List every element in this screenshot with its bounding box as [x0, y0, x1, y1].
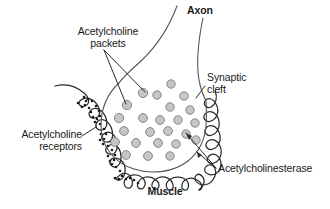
label-acetylcholine-packets: Acetylcholine packets	[62, 26, 154, 49]
vesicle	[122, 100, 131, 109]
leader-ache-1	[186, 133, 216, 168]
leader-receptors	[82, 127, 96, 136]
leader-lines	[82, 50, 216, 168]
label-muscle: Muscle	[120, 186, 210, 198]
acetylcholine-vesicles	[111, 80, 201, 161]
vesicle	[120, 127, 129, 136]
vesicle	[166, 103, 174, 111]
vesicle	[153, 91, 161, 99]
vesicle	[192, 136, 200, 144]
axon-tube	[119, 6, 206, 101]
vesicle	[191, 119, 199, 127]
vesicle	[186, 106, 194, 114]
diagram-canvas	[0, 0, 330, 209]
vesicle	[167, 80, 175, 88]
leader-packets-1	[104, 50, 145, 92]
vesicle	[174, 116, 182, 124]
vesicle	[139, 114, 148, 123]
label-axon: Axon	[175, 5, 225, 17]
neuromuscular-junction-figure: Acetylcholine packets Axon Synaptic clef…	[0, 0, 330, 209]
label-acetylcholinesterase: Acetylcholinesterase	[218, 163, 330, 175]
vesicle	[122, 151, 131, 160]
axon-wall-right	[198, 18, 206, 101]
label-synaptic-cleft: Synaptic cleft	[207, 72, 269, 95]
vesicle	[154, 139, 163, 148]
vesicle	[156, 116, 165, 125]
vesicle	[166, 152, 174, 160]
vesicle	[132, 139, 141, 148]
vesicle	[172, 140, 180, 148]
leader-packets-2	[104, 50, 126, 104]
vesicle	[180, 92, 188, 100]
label-acetylcholine-receptors: Acetylcholine receptors	[2, 129, 82, 152]
vesicle	[111, 138, 120, 147]
vesicle	[164, 127, 173, 136]
vesicle	[144, 152, 153, 161]
vesicle	[114, 113, 123, 122]
vesicle	[146, 128, 155, 137]
